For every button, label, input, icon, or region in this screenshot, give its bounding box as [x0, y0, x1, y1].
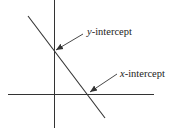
intercepts-diagram: y-intercept x-intercept	[0, 0, 181, 136]
x-intercept-arrow	[90, 74, 117, 92]
y-intercept-label: y-intercept	[86, 26, 132, 37]
x-intercept-label: x-intercept	[119, 68, 165, 79]
y-intercept-arrow	[56, 34, 83, 50]
